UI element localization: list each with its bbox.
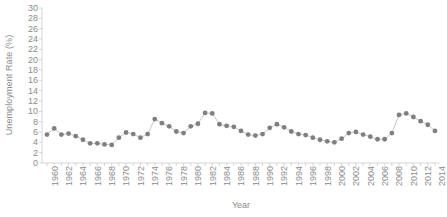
axis-lines bbox=[42, 8, 440, 163]
data-point bbox=[332, 140, 337, 145]
y-tick-label: 6 bbox=[33, 128, 38, 137]
x-tick-label: 2004 bbox=[367, 166, 376, 186]
y-tick-label: 24 bbox=[28, 35, 38, 44]
data-point bbox=[124, 130, 129, 135]
data-point bbox=[160, 121, 165, 126]
data-point bbox=[354, 130, 359, 135]
x-axis-tick-labels: 1960196219641966196819701972197419761978… bbox=[42, 166, 440, 198]
y-axis-tick-labels: 024681012141618202224262830 bbox=[18, 0, 40, 170]
data-point bbox=[325, 139, 330, 144]
x-tick-label: 1960 bbox=[51, 166, 60, 186]
y-tick-label: 0 bbox=[33, 159, 38, 168]
data-point bbox=[88, 141, 93, 146]
y-tick-label: 30 bbox=[28, 4, 38, 13]
x-tick-label: 1998 bbox=[324, 166, 333, 186]
data-point bbox=[102, 142, 107, 147]
y-tick-label: 2 bbox=[33, 148, 38, 157]
plot-area bbox=[42, 8, 440, 163]
data-point bbox=[397, 113, 402, 118]
x-tick-label: 1986 bbox=[237, 166, 246, 186]
data-point bbox=[346, 131, 351, 136]
x-tick-label: 1966 bbox=[94, 166, 103, 186]
data-point bbox=[109, 143, 114, 148]
y-tick-label: 14 bbox=[28, 86, 38, 95]
data-point bbox=[59, 132, 64, 137]
data-point bbox=[368, 134, 373, 139]
data-point bbox=[138, 135, 143, 140]
x-tick-label: 1996 bbox=[309, 166, 318, 186]
y-tick-label: 22 bbox=[28, 45, 38, 54]
y-tick-label: 28 bbox=[28, 14, 38, 23]
data-point bbox=[210, 111, 215, 116]
x-tick-label: 1982 bbox=[209, 166, 218, 186]
data-point bbox=[231, 124, 236, 129]
data-point bbox=[203, 110, 208, 115]
y-axis-title-text: Unemployment Rate (%) bbox=[4, 35, 14, 136]
x-tick-label: 1968 bbox=[108, 166, 117, 186]
data-point bbox=[73, 134, 78, 139]
plot-svg bbox=[42, 8, 440, 163]
x-tick-label: 1994 bbox=[295, 166, 304, 186]
data-point bbox=[339, 136, 344, 141]
x-tick-label: 1970 bbox=[122, 166, 131, 186]
x-tick-label: 1978 bbox=[180, 166, 189, 186]
data-point bbox=[246, 132, 251, 137]
y-tick-label: 16 bbox=[28, 76, 38, 85]
x-tick-label: 1962 bbox=[65, 166, 74, 186]
y-tick-label: 10 bbox=[28, 107, 38, 116]
data-point bbox=[303, 133, 308, 138]
data-point bbox=[152, 117, 157, 122]
data-point bbox=[81, 137, 86, 142]
data-point bbox=[260, 132, 265, 137]
x-tick-label: 1964 bbox=[79, 166, 88, 186]
x-tick-label: 2012 bbox=[424, 166, 433, 186]
data-point bbox=[375, 137, 380, 142]
data-point bbox=[174, 129, 179, 134]
data-point bbox=[66, 131, 71, 136]
data-point bbox=[389, 131, 394, 136]
data-point bbox=[116, 135, 121, 140]
data-point bbox=[411, 115, 416, 120]
data-point bbox=[239, 129, 244, 134]
data-point bbox=[224, 123, 229, 128]
x-tick-label: 2000 bbox=[338, 166, 347, 186]
x-tick-label: 2006 bbox=[381, 166, 390, 186]
data-point bbox=[45, 132, 50, 137]
x-tick-label: 2014 bbox=[438, 166, 447, 186]
y-tick-label: 12 bbox=[28, 97, 38, 106]
y-tick-label: 4 bbox=[33, 138, 38, 147]
y-tick-label: 20 bbox=[28, 55, 38, 64]
x-tick-label: 1976 bbox=[165, 166, 174, 186]
x-tick-label: 2010 bbox=[410, 166, 419, 186]
x-tick-label: 1974 bbox=[151, 166, 160, 186]
data-point bbox=[95, 141, 100, 146]
data-point bbox=[253, 133, 258, 138]
y-tick-label: 26 bbox=[28, 24, 38, 33]
data-point bbox=[167, 124, 172, 129]
data-point bbox=[267, 125, 272, 130]
data-point bbox=[425, 122, 430, 127]
data-point bbox=[52, 126, 57, 131]
x-tick-label: 1980 bbox=[194, 166, 203, 186]
x-tick-label: 1992 bbox=[280, 166, 289, 186]
data-point bbox=[318, 137, 323, 142]
x-tick-label: 1984 bbox=[223, 166, 232, 186]
data-point bbox=[188, 124, 193, 129]
y-tick-label: 8 bbox=[33, 117, 38, 126]
y-axis-title: Unemployment Rate (%) bbox=[0, 0, 18, 170]
data-point bbox=[282, 125, 287, 130]
data-point bbox=[196, 121, 201, 126]
y-tick-label: 18 bbox=[28, 66, 38, 75]
data-point bbox=[131, 132, 136, 137]
data-point bbox=[404, 111, 409, 116]
data-point bbox=[361, 132, 366, 137]
data-point bbox=[145, 132, 150, 137]
data-point bbox=[296, 132, 301, 137]
x-tick-label: 1990 bbox=[266, 166, 275, 186]
data-point bbox=[289, 129, 294, 134]
data-point bbox=[382, 137, 387, 142]
x-tick-label: 2002 bbox=[352, 166, 361, 186]
x-tick-label: 1988 bbox=[252, 166, 261, 186]
x-tick-label: 2008 bbox=[395, 166, 404, 186]
